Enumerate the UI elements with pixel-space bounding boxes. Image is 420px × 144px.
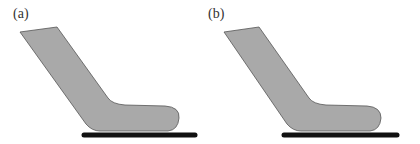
panel-a: (a) [0,0,210,144]
bent-rod-diagram-a [0,0,210,144]
bent-rod-shape [20,27,179,131]
bent-rod-shape [224,27,381,131]
bent-rod-diagram-b [205,0,415,144]
panel-b: (b) [205,0,415,144]
